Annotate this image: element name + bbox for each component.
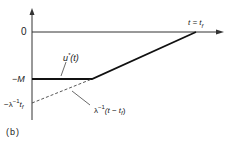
control-label-leader (61, 62, 66, 76)
costate-arg-open: (t − t (105, 106, 121, 115)
costate-sup: −1 (98, 104, 105, 110)
costate-label: λ−1(t − tf) (94, 104, 125, 116)
final-time-label: t = tf (188, 19, 203, 29)
origin-label: 0 (21, 27, 27, 37)
optimal-control-curve (32, 32, 196, 79)
costate-arg-close: ) (123, 106, 126, 115)
panel-label: (b) (6, 128, 20, 137)
costate-label-leader (72, 91, 90, 105)
final-time-text: t = t (188, 18, 202, 27)
lambda-sup: −1 (13, 98, 20, 104)
control-label: u*(t) (63, 52, 79, 63)
final-time-sub: f (202, 23, 204, 29)
lambda-prefix: −λ (4, 100, 13, 109)
lambda-sub: f (22, 104, 24, 110)
time-axis-arrow-icon (216, 30, 224, 35)
minus-M-label: −M (12, 75, 25, 84)
control-arg: (t) (70, 53, 79, 63)
vertical-axis-arrow-icon (30, 8, 35, 15)
minus-lambda-tf-label: −λ−1tf (4, 98, 23, 110)
